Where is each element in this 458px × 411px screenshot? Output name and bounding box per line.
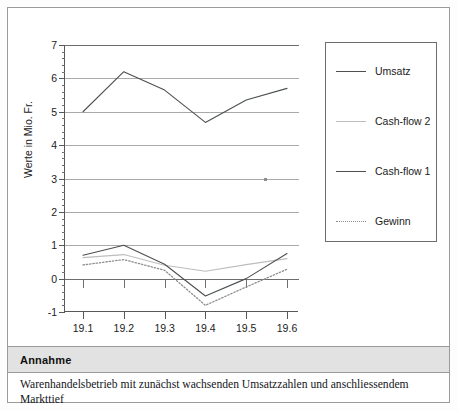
y-tick-label-4: 4 [51, 140, 57, 151]
x-tick-19.2 [124, 312, 125, 319]
plot-area: -101234567 19.119.219.319.419.519.6 [64, 45, 298, 312]
x-tick-label-19.5: 19.5 [236, 323, 256, 334]
annahme-body: Warenhandelsbetrieb mit zunächst wachsen… [8, 373, 449, 402]
y-tick--1 [59, 312, 65, 313]
legend-label: Umsatz [375, 66, 411, 77]
legend-item-cash-flow-1[interactable]: Cash-flow 1 [326, 163, 438, 179]
x-tick-19.1 [83, 312, 84, 319]
legend-label: Cash-flow 1 [375, 166, 430, 177]
legend-swatch-icon [336, 166, 366, 176]
legend-item-cash-flow-2[interactable]: Cash-flow 2 [326, 113, 438, 129]
x-tick-19.4 [205, 312, 206, 319]
figure-page: Werte in Mio. Fr. -101234567 19.119.219.… [0, 0, 458, 411]
annahme-title: Annahme [20, 354, 72, 366]
x-tick-19.5 [246, 312, 247, 319]
y-axis-title: Werte in Mio. Fr. [22, 101, 34, 178]
legend-swatch-icon [336, 216, 366, 226]
x-tick-label-19.6: 19.6 [277, 323, 297, 334]
series-line-umsatz [83, 72, 287, 123]
y-tick-label--1: -1 [48, 307, 57, 318]
x-tick-19.6 [287, 312, 288, 319]
y-tick-label-2: 2 [51, 207, 57, 218]
x-tick-label-19.1: 19.1 [73, 323, 93, 334]
y-tick-label-1: 1 [51, 240, 57, 251]
y-tick-label-0: 0 [51, 273, 57, 284]
series-line-cash-flow-2 [83, 255, 287, 272]
y-tick-label-3: 3 [51, 173, 57, 184]
x-tick-label-19.3: 19.3 [154, 323, 174, 334]
annahme-header-band: Annahme [8, 346, 449, 373]
y-tick-label-5: 5 [51, 107, 57, 118]
scan-artifact [264, 178, 267, 181]
annahme-text: Warenhandelsbetrieb mit zunächst wachsen… [20, 377, 434, 408]
x-tick-label-19.4: 19.4 [195, 323, 215, 334]
legend-label: Gewinn [375, 216, 411, 227]
legend-item-umsatz[interactable]: Umsatz [326, 63, 438, 79]
series-line-gewinn [83, 260, 287, 306]
chart-legend: UmsatzCash-flow 2Cash-flow 1Gewinn [325, 42, 437, 242]
y-tick-label-6: 6 [51, 73, 57, 84]
y-tick-label-7: 7 [51, 40, 57, 51]
figure-frame: Werte in Mio. Fr. -101234567 19.119.219.… [7, 7, 450, 403]
legend-swatch-icon [336, 66, 366, 76]
legend-label: Cash-flow 2 [375, 116, 430, 127]
x-tick-label-19.2: 19.2 [114, 323, 134, 334]
legend-swatch-icon [336, 116, 366, 126]
x-tick-19.3 [165, 312, 166, 319]
legend-item-gewinn[interactable]: Gewinn [326, 213, 438, 229]
